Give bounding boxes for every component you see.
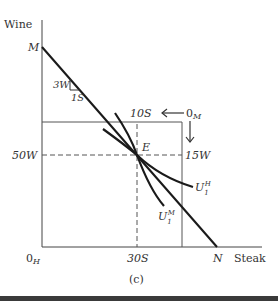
- right-box-label: 15W: [185, 149, 212, 162]
- edgeworth-diagram: Wine M 3W 1S 10S 0M E 50W 15W U1H U1M 0H…: [0, 0, 278, 301]
- y-tick-label: 50W: [12, 149, 39, 162]
- point-n-label: N: [212, 252, 223, 265]
- slope-run-label: 1S: [71, 92, 84, 103]
- slope-rise-label: 3W: [53, 79, 70, 90]
- origin-h-label: 0H: [26, 252, 41, 266]
- top-box-label: 10S: [130, 107, 152, 120]
- x-axis-label: Steak: [234, 252, 266, 265]
- foreign-curve-label: U1M: [158, 209, 176, 226]
- page-edge-bar: [0, 296, 278, 301]
- point-m-label: M: [27, 41, 40, 54]
- point-e-label: E: [141, 141, 150, 154]
- foreign-indifference-curve: [115, 113, 164, 206]
- home-indifference-curve: [103, 129, 193, 187]
- x-tick-label: 30S: [127, 252, 149, 265]
- y-axis-label: Wine: [4, 18, 32, 31]
- home-curve-label: U1H: [195, 180, 212, 197]
- origin-m-label: 0M: [186, 107, 202, 121]
- terms-of-trade-line: [42, 47, 217, 247]
- figure-caption: (c): [129, 273, 144, 286]
